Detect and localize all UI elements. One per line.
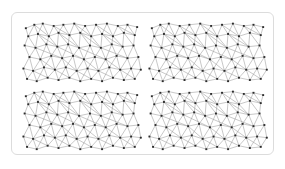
mesh-graph-bottom-right xyxy=(147,87,268,152)
mesh-panel-top-right xyxy=(147,19,268,84)
figure-root xyxy=(0,0,285,169)
mesh-panel-top-left xyxy=(21,19,142,84)
node-layer xyxy=(22,90,141,149)
figure-card xyxy=(11,12,274,155)
mesh-panel-grid xyxy=(21,19,268,151)
mesh-graph-bottom-left xyxy=(21,87,142,152)
mesh-graph-top-left xyxy=(21,19,142,84)
mesh-panel-bottom-left xyxy=(21,87,142,152)
node-layer xyxy=(22,23,141,82)
mesh-graph-top-right xyxy=(147,19,268,84)
node-layer xyxy=(148,23,267,82)
mesh-panel-bottom-right xyxy=(147,87,268,152)
node-layer xyxy=(148,90,267,149)
